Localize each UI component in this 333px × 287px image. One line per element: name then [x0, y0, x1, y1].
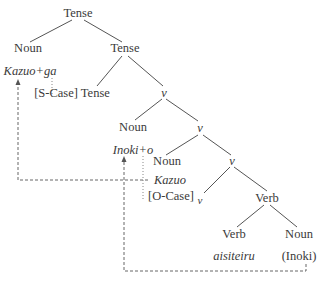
word-aisiteiru: aisiteiru	[213, 249, 255, 263]
branch	[166, 99, 198, 121]
node-v-head: v	[198, 193, 203, 207]
word-kazuo-ga: Kazuo+ga	[4, 64, 57, 78]
branch	[135, 99, 162, 120]
branch	[237, 205, 264, 227]
branch	[203, 135, 231, 155]
node-tense-root: Tense	[64, 6, 93, 20]
node-tense-bar: Tense	[111, 41, 140, 55]
branch	[270, 205, 297, 227]
branch	[97, 56, 122, 86]
branch	[128, 56, 163, 86]
word-kazuo: Kazuo	[154, 173, 186, 187]
branch	[166, 135, 198, 155]
node-verb-head: Verb	[222, 227, 246, 241]
node-v-2: v	[197, 121, 203, 135]
node-noun-object: Noun	[119, 120, 147, 134]
arrowhead-icon	[16, 79, 21, 85]
node-verb-phrase: Verb	[255, 191, 279, 205]
tree-lines	[0, 0, 333, 287]
branch	[234, 167, 267, 191]
branch	[30, 20, 72, 42]
branch	[204, 167, 230, 193]
feature-o-case: [O-Case]	[148, 189, 194, 203]
node-v-1: v	[161, 86, 167, 100]
node-noun-object-base: Noun	[285, 227, 313, 241]
word-inoki-o: Inoki+o	[113, 143, 153, 157]
node-noun-subject: Noun	[14, 41, 42, 55]
node-v-3: v	[229, 154, 235, 168]
node-noun-subject-base: Noun	[153, 154, 181, 168]
trace-inoki: (Inoki)	[282, 249, 317, 263]
branch	[84, 20, 122, 42]
node-tense-head: [S-Case] Tense	[34, 86, 110, 100]
